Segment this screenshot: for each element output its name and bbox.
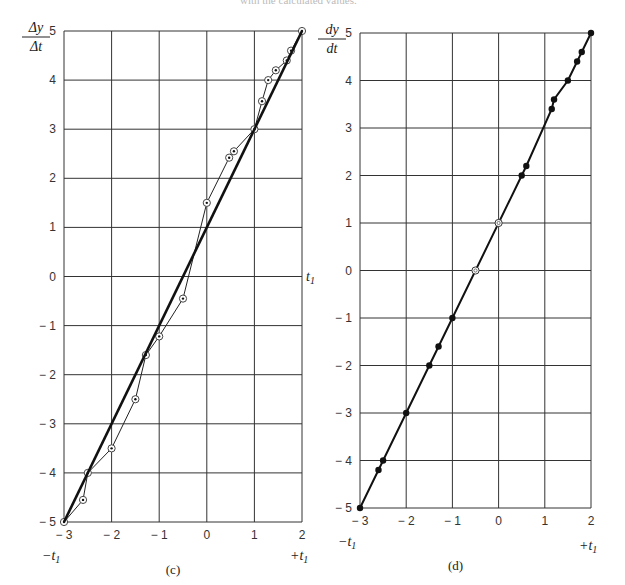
svg-text:−t1: −t1: [42, 548, 60, 565]
svg-text:1: 1: [49, 220, 56, 234]
svg-text:Δy: Δy: [28, 20, 44, 35]
panel-caption: (c): [166, 562, 180, 577]
y-axis-label: dydt: [318, 22, 346, 56]
x-axis-end-labels: −t1+t1: [338, 534, 597, 555]
svg-text:− 3: − 3: [351, 514, 368, 528]
svg-text:− 1: − 1: [444, 514, 461, 528]
svg-text:dy: dy: [325, 22, 339, 37]
svg-text:− 3: − 3: [55, 528, 72, 542]
svg-text:− 2: − 2: [103, 528, 120, 542]
svg-text:1: 1: [251, 528, 258, 542]
svg-text:− 2: − 2: [398, 514, 415, 528]
svg-text:5: 5: [49, 24, 56, 38]
svg-text:1: 1: [345, 216, 352, 230]
svg-text:+t1: +t1: [290, 548, 308, 565]
svg-text:− 5: − 5: [335, 501, 352, 515]
y-axis-label: ΔyΔt: [22, 20, 50, 54]
svg-text:3: 3: [345, 121, 352, 135]
svg-text:− 1: − 1: [151, 528, 168, 542]
svg-text:− 1: − 1: [39, 319, 56, 333]
svg-text:0: 0: [203, 528, 210, 542]
svg-text:− 3: − 3: [335, 406, 352, 420]
svg-text:2: 2: [588, 514, 595, 528]
svg-text:Δt: Δt: [29, 39, 43, 54]
figure-canvas: 543210− 1− 2− 3− 4− 5− 3− 2− 1012ΔyΔt−t1…: [0, 0, 625, 585]
svg-text:2: 2: [299, 528, 306, 542]
svg-text:4: 4: [49, 73, 56, 87]
svg-text:− 1: − 1: [335, 311, 352, 325]
svg-text:− 4: − 4: [39, 466, 56, 480]
svg-text:0: 0: [49, 270, 56, 284]
svg-text:− 4: − 4: [335, 454, 352, 468]
svg-text:0: 0: [495, 514, 502, 528]
svg-text:− 3: − 3: [39, 417, 56, 431]
svg-text:− 2: − 2: [335, 359, 352, 373]
svg-text:4: 4: [345, 74, 352, 88]
t1-marker-label: t1: [306, 269, 315, 286]
svg-text:2: 2: [49, 171, 56, 185]
chart-panel-d: 543210− 1− 2− 3− 4− 5− 3− 2− 1012dydt−t1…: [318, 22, 597, 573]
chart-panel-c: 543210− 1− 2− 3− 4− 5− 3− 2− 1012ΔyΔt−t1…: [22, 20, 315, 577]
svg-text:−t1: −t1: [338, 534, 356, 551]
svg-text:+t1: +t1: [579, 538, 597, 555]
panel-caption: (d): [448, 558, 463, 573]
svg-text:− 5: − 5: [39, 515, 56, 529]
svg-text:3: 3: [49, 122, 56, 136]
svg-text:5: 5: [345, 26, 352, 40]
svg-text:1: 1: [541, 514, 548, 528]
svg-text:− 2: − 2: [39, 368, 56, 382]
svg-text:2: 2: [345, 169, 352, 183]
svg-text:dt: dt: [327, 41, 339, 56]
svg-text:0: 0: [345, 264, 352, 278]
